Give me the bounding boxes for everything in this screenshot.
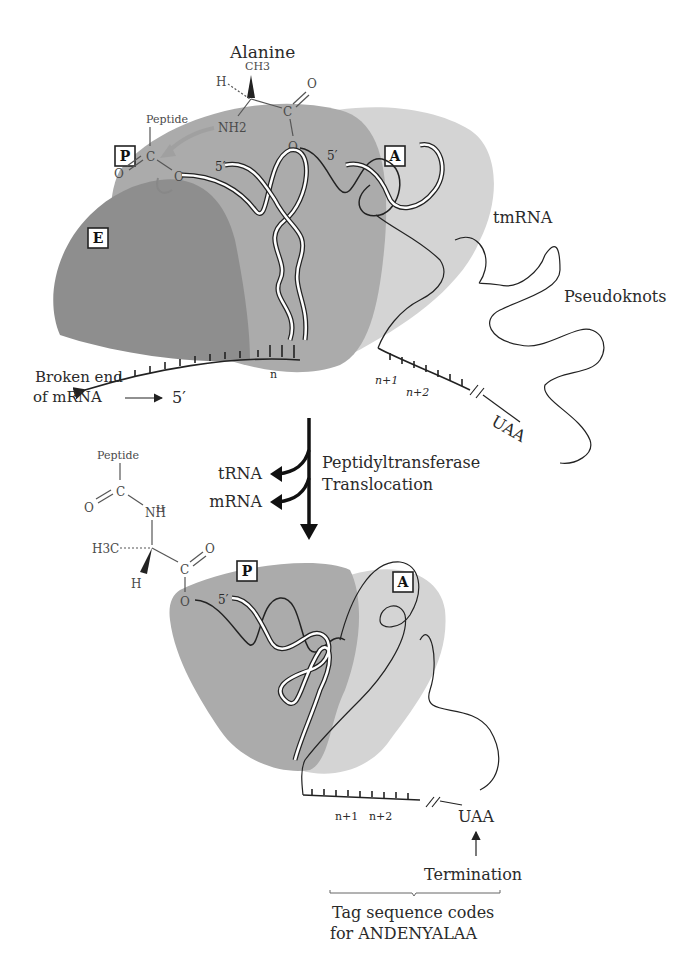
stop-codon-top: UAA <box>488 412 529 447</box>
broken-end-label-2: of mRNA <box>33 388 102 406</box>
codon-n2-label-top: n+2 <box>406 386 429 399</box>
peptidyltransferase-label: Peptidyltransferase <box>322 453 480 472</box>
codon-n-label: n <box>270 368 277 381</box>
translocation-label: Translocation <box>322 475 433 494</box>
e-site-region-top <box>53 179 250 361</box>
svg-text:O: O <box>307 77 317 91</box>
codon-n1-label-top: n+1 <box>375 374 398 387</box>
svg-text:NH2: NH2 <box>218 121 247 135</box>
svg-text:O: O <box>114 167 124 181</box>
alanine-label: Alanine <box>229 42 295 62</box>
site-label-a-top: A <box>385 146 405 166</box>
svg-text:Peptide: Peptide <box>97 449 139 462</box>
released-mrna-label: mRNA <box>209 492 262 511</box>
svg-text:H: H <box>131 577 141 591</box>
mrna-five-prime-label: 5′ <box>172 388 186 407</box>
svg-text:O: O <box>84 501 94 515</box>
svg-text:H: H <box>216 75 226 89</box>
site-label-e-top: E <box>88 228 108 248</box>
mrna-bottom <box>303 789 462 807</box>
five-prime-label-bottom: 5′ <box>218 593 229 607</box>
peptide-structure-bottom: Peptide C O NH H <box>84 449 166 545</box>
svg-text:P: P <box>242 563 253 579</box>
svg-text:O: O <box>180 595 190 609</box>
five-prime-label-p: 5′ <box>215 160 226 174</box>
codon-n2-label-bottom: n+2 <box>369 810 392 823</box>
tag-sequence-bracket <box>330 890 500 896</box>
five-prime-label-a: 5′ <box>327 149 338 163</box>
site-label-a-bottom: A <box>393 572 413 592</box>
tag-sequence-label-1: Tag sequence codes <box>332 903 494 922</box>
svg-text:O: O <box>205 542 215 556</box>
svg-text:H3C: H3C <box>92 542 119 556</box>
svg-text:CH3: CH3 <box>245 60 270 73</box>
stop-codon-bottom: UAA <box>458 807 495 826</box>
svg-text:H: H <box>156 503 165 514</box>
codon-n1-label-bottom: n+1 <box>335 810 358 823</box>
pseudoknots-label: Pseudoknots <box>564 287 666 306</box>
svg-text:Peptide: Peptide <box>146 113 188 126</box>
transition-arrow <box>270 418 318 540</box>
svg-text:C: C <box>116 485 125 499</box>
tmrna-trans-translation-diagram: P A E Alanine CH3 H C O O NH2 Peptide C … <box>0 0 700 962</box>
svg-text:C: C <box>146 150 155 164</box>
termination-label: Termination <box>424 865 522 884</box>
svg-text:C: C <box>180 563 189 577</box>
svg-text:A: A <box>397 574 410 590</box>
tag-sequence-label-2: for ANDENYALAA <box>330 924 477 943</box>
tmrna-label: tmRNA <box>493 208 553 227</box>
svg-text:E: E <box>93 230 104 246</box>
released-trna-label: tRNA <box>218 464 262 483</box>
svg-text:P: P <box>120 148 131 164</box>
site-label-p-bottom: P <box>237 561 257 581</box>
svg-text:A: A <box>389 148 402 164</box>
broken-end-label-1: Broken end <box>35 368 123 386</box>
svg-text:C: C <box>283 105 292 119</box>
